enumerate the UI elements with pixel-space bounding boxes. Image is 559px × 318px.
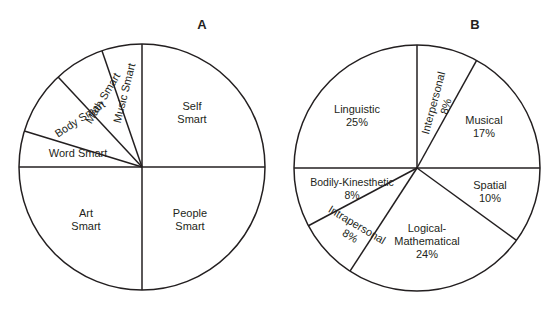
- pie-a-slice-label: Word Smart: [49, 147, 107, 159]
- pie-b-slice-label-line: Linguistic: [334, 103, 380, 115]
- pie-b-slice-label-line: Mathematical: [394, 235, 459, 247]
- pie-a-slice-label-line: Smart: [71, 220, 100, 232]
- pie-a-slice-label-line: Word Smart: [49, 147, 107, 159]
- pie-b-slice-label-line: Musical: [465, 114, 502, 126]
- pie-b-slice-label-line: Logical-: [408, 222, 447, 234]
- pie-b-slice-label-line: 8%: [344, 189, 359, 201]
- panel-letter-a: A: [197, 17, 207, 32]
- panel-letter-b: B: [470, 17, 479, 32]
- pie-charts-figure: SelfSmartPeopleSmartArtSmartWord SmartBo…: [0, 0, 559, 318]
- pie-b-slice-label-line: Spatial: [473, 179, 507, 191]
- pie-a-slice-label-line: Smart: [177, 113, 206, 125]
- pie-b-slice-label-line: Bodily-Kinesthetic: [310, 176, 393, 188]
- figure-root: SelfSmartPeopleSmartArtSmartWord SmartBo…: [0, 0, 559, 318]
- pie-a-slice-label-line: Art: [79, 207, 93, 219]
- pie-a-slice-label-line: Self: [183, 100, 203, 112]
- pie-a-slice-label-line: People: [173, 207, 207, 219]
- pie-b-slice-label-line: 24%: [416, 248, 438, 260]
- figure-background: [0, 0, 559, 318]
- pie-a-slice-label: PeopleSmart: [173, 207, 207, 232]
- pie-a-slice-label-line: Smart: [175, 220, 204, 232]
- pie-b-slice-label-line: 10%: [479, 192, 501, 204]
- pie-b-slice-label-line: 25%: [346, 116, 368, 128]
- pie-b-slice-label-line: 17%: [473, 127, 495, 139]
